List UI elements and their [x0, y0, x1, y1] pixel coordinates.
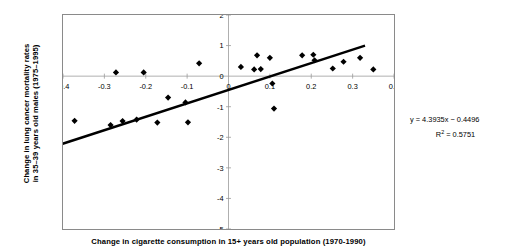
y-tick-label: -1 — [217, 103, 224, 112]
x-tick-label: -0.2 — [139, 82, 152, 91]
data-point — [154, 120, 160, 126]
data-point — [340, 59, 346, 65]
data-point — [134, 116, 140, 122]
data-point — [271, 105, 277, 111]
trendline-r2: R2 = 0.5751 — [410, 126, 515, 141]
x-tick-label: -0.3 — [98, 82, 111, 91]
trendline-equation: y = 4.3935x − 0.4496 — [410, 115, 479, 124]
y-tick-label: 1 — [219, 41, 223, 50]
chart-figure: Change in lung cancer mortality rates in… — [0, 0, 515, 252]
x-axis-title: Change in cigarette consumption in 15+ y… — [62, 237, 395, 246]
trendline — [63, 46, 365, 147]
data-point — [71, 118, 77, 124]
plot-area: -0.4-0.3-0.2-0.100.10.20.30.4210-1-2-3-4… — [62, 14, 395, 230]
y-tick-label: -2 — [217, 133, 224, 142]
data-point — [330, 65, 336, 71]
data-point — [258, 66, 264, 72]
trendline-annotation: y = 4.3935x − 0.4496 R2 = 0.5751 — [410, 113, 515, 141]
data-point — [185, 119, 191, 125]
x-tick-label: 0.3 — [347, 82, 357, 91]
x-tick-label: 0.4 — [389, 82, 394, 91]
y-axis-title: Change in lung cancer mortality rates in… — [22, 4, 41, 222]
x-tick-label: -0.4 — [63, 82, 69, 91]
data-point — [165, 94, 171, 100]
y-tick-label: -3 — [217, 164, 224, 173]
y-axis-title-line2: in 35–39 years old males (1975–1995) — [31, 4, 40, 222]
y-tick-label: -5 — [217, 225, 224, 229]
data-point — [254, 52, 260, 58]
y-tick-label: 0 — [219, 72, 223, 81]
x-tick-label: 0.2 — [306, 82, 316, 91]
data-point — [196, 60, 202, 66]
data-point — [251, 66, 257, 72]
y-tick-label: 2 — [219, 15, 223, 20]
data-point — [267, 55, 273, 61]
data-point — [310, 52, 316, 58]
data-point — [238, 64, 244, 70]
scatter-plot-svg: -0.4-0.3-0.2-0.100.10.20.30.4210-1-2-3-4… — [63, 15, 394, 229]
data-point — [113, 69, 119, 75]
data-point — [370, 66, 376, 72]
data-point — [357, 55, 363, 61]
data-point — [299, 52, 305, 58]
y-axis-title-line1: Change in lung cancer mortality rates — [22, 4, 31, 222]
y-tick-label: -4 — [217, 194, 224, 203]
x-tick-label: -0.1 — [181, 82, 194, 91]
